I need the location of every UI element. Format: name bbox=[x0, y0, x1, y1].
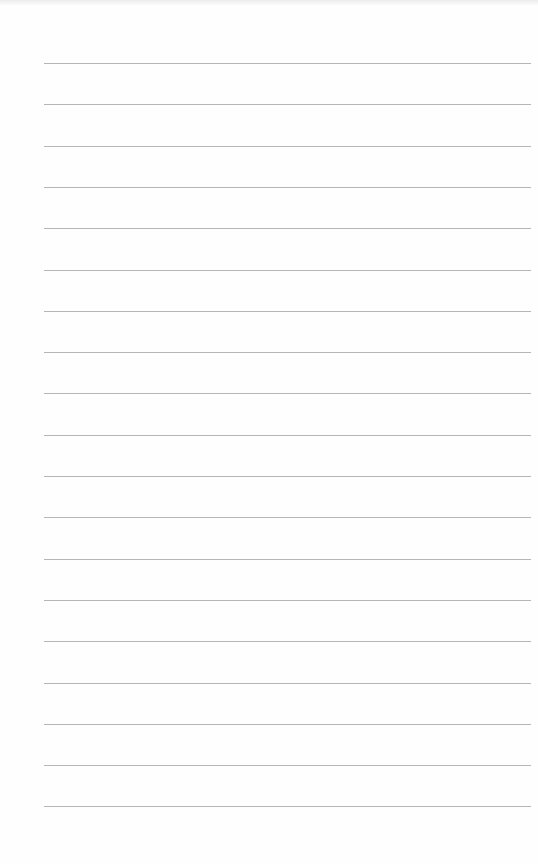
ruled-line bbox=[44, 476, 531, 477]
ruled-line bbox=[44, 559, 531, 560]
ruled-line bbox=[44, 765, 531, 766]
ruled-line bbox=[44, 806, 531, 807]
page-top-edge bbox=[0, 0, 538, 6]
ruled-line bbox=[44, 600, 531, 601]
ruled-line bbox=[44, 724, 531, 725]
ruled-line bbox=[44, 228, 531, 229]
ruled-line bbox=[44, 270, 531, 271]
ruled-line bbox=[44, 393, 531, 394]
ruled-line bbox=[44, 63, 531, 64]
ruled-line bbox=[44, 352, 531, 353]
ruled-line bbox=[44, 517, 531, 518]
ruled-line bbox=[44, 146, 531, 147]
ruled-line bbox=[44, 187, 531, 188]
ruled-line bbox=[44, 641, 531, 642]
ruled-line bbox=[44, 683, 531, 684]
lined-paper-page bbox=[0, 0, 538, 864]
ruled-line bbox=[44, 311, 531, 312]
ruled-line bbox=[44, 104, 531, 105]
ruled-line bbox=[44, 435, 531, 436]
